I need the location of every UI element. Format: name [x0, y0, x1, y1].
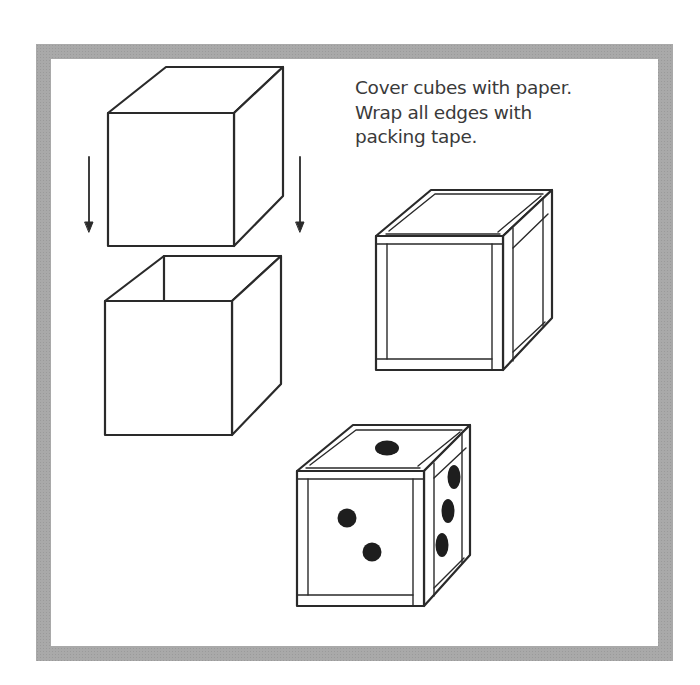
down-arrow-icon [296, 157, 304, 232]
taped-cube [376, 190, 552, 370]
open-box [105, 256, 281, 435]
diagram-canvas [0, 0, 700, 685]
pip-right-1 [448, 465, 461, 489]
pip-right-2 [442, 499, 455, 523]
die [297, 425, 470, 606]
pip-front-2 [363, 543, 382, 562]
pip-front-1 [338, 509, 357, 528]
instruction-line-1: Cover cubes with paper. [355, 76, 572, 101]
lid-cube [108, 67, 283, 246]
pip-top [375, 441, 399, 456]
instruction-line-2: Wrap all edges with [355, 101, 572, 126]
instruction-text: Cover cubes with paper. Wrap all edges w… [355, 76, 572, 150]
pip-right-3 [436, 533, 449, 557]
instruction-line-3: packing tape. [355, 125, 572, 150]
down-arrow-icon [85, 157, 93, 232]
